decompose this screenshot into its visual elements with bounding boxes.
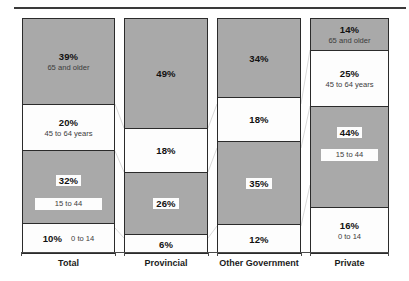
- segment-value: 14%: [340, 24, 359, 35]
- segment-total-15-to-44[interactable]: 32% 15 to 44: [22, 150, 115, 223]
- segment-provincial-15-to-44[interactable]: 26%: [124, 172, 208, 234]
- column-private[interactable]: 14% 65 and older 25% 45 to 64 years 44% …: [310, 18, 389, 254]
- axis-tick: [301, 252, 302, 256]
- segment-value: 49%: [156, 68, 175, 79]
- segment-other-government-65-and-older[interactable]: 34%: [217, 18, 301, 97]
- segment-value: 39%: [59, 51, 78, 62]
- x-axis-label-total: Total: [22, 258, 115, 268]
- segment-private-0-to-14[interactable]: 16% 0 to 14: [310, 207, 389, 254]
- segment-private-65-and-older[interactable]: 14% 65 and older: [310, 18, 389, 50]
- segment-other-government-0-to-14[interactable]: 12%: [217, 224, 301, 254]
- segment-value: 16%: [340, 220, 359, 231]
- segment-value: 12%: [249, 234, 268, 245]
- segment-value: 26%: [153, 198, 178, 209]
- segment-value: 32%: [56, 175, 81, 186]
- segment-provincial-0-to-14[interactable]: 6%: [124, 234, 208, 254]
- segment-value: 18%: [249, 114, 268, 125]
- column-total[interactable]: 39% 65 and older 20% 45 to 64 years 32% …: [22, 18, 115, 254]
- x-axis-label-other-government: Other Government: [211, 258, 307, 268]
- x-axis-line: [21, 252, 389, 253]
- axis-tick: [388, 252, 389, 256]
- column-other-government[interactable]: 34% 18% 35% 12%: [217, 18, 301, 254]
- x-axis-label-provincial: Provincial: [124, 258, 208, 268]
- axis-tick: [310, 252, 311, 256]
- axis-tick: [115, 252, 116, 256]
- segment-provincial-45-to-64[interactable]: 18%: [124, 128, 208, 172]
- segment-value: 18%: [156, 145, 175, 156]
- segment-value: 20%: [59, 117, 78, 128]
- segment-value: 35%: [246, 178, 271, 189]
- segment-category-label: 0 to 14: [338, 232, 361, 242]
- segment-total-65-and-older[interactable]: 39% 65 and older: [22, 18, 115, 104]
- segment-category-label: 65 and older: [47, 63, 89, 73]
- segment-category-label: 45 to 64 years: [325, 80, 373, 90]
- segment-total-0-to-14[interactable]: 10% 0 to 14: [22, 223, 115, 254]
- segment-private-45-to-64[interactable]: 25% 45 to 64 years: [310, 50, 389, 106]
- x-axis-label-private: Private: [310, 258, 389, 268]
- segment-value: 6%: [159, 239, 173, 250]
- segment-category-label: 15 to 44: [321, 149, 378, 161]
- segment-value: 34%: [249, 53, 268, 64]
- stacked-bar-chart: 39% 65 and older 20% 45 to 64 years 32% …: [0, 0, 409, 281]
- segment-category-label: 0 to 14: [71, 234, 94, 244]
- segment-value: 10%: [43, 233, 62, 244]
- segment-provincial-65-and-older[interactable]: 49%: [124, 18, 208, 128]
- segment-other-government-15-to-44[interactable]: 35%: [217, 141, 301, 224]
- segment-value: 25%: [340, 68, 359, 79]
- axis-tick: [208, 252, 209, 256]
- segment-value: 44%: [337, 127, 362, 138]
- column-provincial[interactable]: 49% 18% 26% 6%: [124, 18, 208, 254]
- segment-category-label: 15 to 44: [35, 198, 102, 210]
- segment-private-15-to-44[interactable]: 44% 15 to 44: [310, 106, 389, 207]
- axis-tick: [124, 252, 125, 256]
- segment-total-45-to-64[interactable]: 20% 45 to 64 years: [22, 104, 115, 150]
- axis-tick: [21, 252, 22, 256]
- segment-category-label: 65 and older: [328, 36, 370, 46]
- axis-tick: [217, 252, 218, 256]
- segment-other-government-45-to-64[interactable]: 18%: [217, 97, 301, 141]
- segment-category-label: 45 to 64 years: [44, 129, 92, 139]
